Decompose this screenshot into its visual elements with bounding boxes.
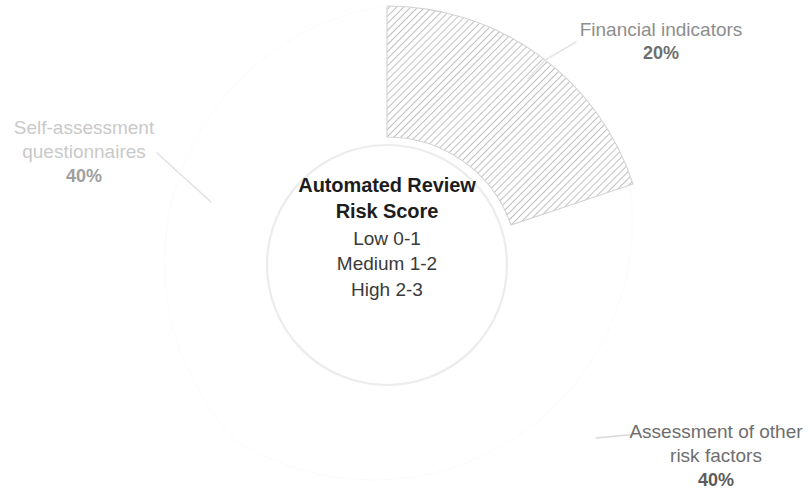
center-heading-line-1: Automated xyxy=(298,174,402,196)
risk-level-medium: Medium 1-2 xyxy=(287,251,487,277)
label-self-assessment-line-2: questionnaires xyxy=(4,140,164,164)
label-financial-indicators[interactable]: Financial indicators 20% xyxy=(576,18,746,65)
label-self-assessment-percent: 40% xyxy=(4,165,164,188)
label-financial-percent: 20% xyxy=(576,42,746,65)
risk-level-high: High 2-3 xyxy=(287,277,487,303)
center-risk-scale: Low 0-1 Medium 1-2 High 2-3 xyxy=(287,226,487,303)
center-heading: Automated Review Risk Score xyxy=(287,172,487,225)
label-other-risk-line-1: Assessment of other xyxy=(626,420,806,444)
label-self-assessment-line-1: Self-assessment xyxy=(4,116,164,140)
center-text-block: Automated Review Risk Score Low 0-1 Medi… xyxy=(287,172,487,303)
label-other-risk-percent: 40% xyxy=(626,469,806,492)
label-other-risk-line-2: risk factors xyxy=(626,444,806,468)
label-self-assessment-questionnaires[interactable]: Self-assessment questionnaires 40% xyxy=(4,116,164,188)
center-heading-line-3: Score xyxy=(383,200,438,222)
label-financial-line-1: Financial indicators xyxy=(576,18,746,42)
label-assessment-of-other-risk-factors[interactable]: Assessment of other risk factors 40% xyxy=(626,420,806,492)
risk-level-low: Low 0-1 xyxy=(287,226,487,252)
donut-chart: Automated Review Risk Score Low 0-1 Medi… xyxy=(0,0,810,494)
leader-line-self-assessment xyxy=(157,153,211,202)
